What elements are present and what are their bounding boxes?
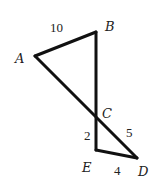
label-point-c: C: [102, 106, 112, 121]
label-point-b: B: [104, 19, 115, 34]
label-ce-length: 2: [84, 128, 91, 143]
label-cd-length: 5: [126, 125, 133, 140]
label-ab-length: 10: [50, 20, 63, 35]
label-ed-length: 4: [114, 163, 121, 178]
label-point-d: D: [137, 164, 149, 179]
label-point-a: A: [14, 51, 24, 66]
segment-ab: [35, 32, 96, 56]
label-point-e: E: [81, 160, 92, 175]
geometry-diagram: 10 B A C 2 5 E 4 D: [0, 0, 166, 192]
